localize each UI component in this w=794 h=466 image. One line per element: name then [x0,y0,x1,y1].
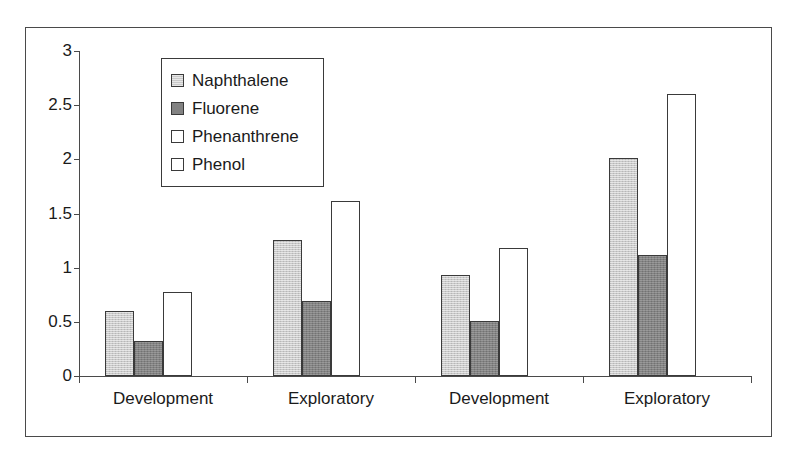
chart-legend: Naphthalene Fluorene Phenanthrene Phenol [161,58,324,187]
x-axis-tick-mark [79,376,80,383]
y-axis-tick-label: 2 [63,149,72,168]
chart-figure: 32.521.510.50 DevelopmentExploratoryDeve… [25,27,772,437]
legend-item[interactable]: Fluorene [171,94,314,122]
bar-naphthalene-group-1 [105,311,134,376]
y-axis-tick-mark [74,214,79,215]
y-axis-tick-label: 1.5 [48,204,72,223]
x-axis-tick-mark [247,376,248,383]
bar-fluorene-group-3 [470,321,499,376]
y-axis-tick-label: 0 [63,366,72,385]
legend-item[interactable]: Phenol [171,150,314,178]
plot-area: 32.521.510.50 DevelopmentExploratoryDeve… [79,51,751,376]
legend-label: Fluorene [192,99,259,118]
x-axis-category-label: Exploratory [583,389,751,409]
legend-item[interactable]: Phenanthrene [171,122,314,150]
legend-item[interactable]: Naphthalene [171,66,314,94]
x-axis-tick-mark [751,376,752,383]
bar-fluorene-group-2 [302,301,331,376]
legend-swatch-phenol [171,158,184,171]
bar-fluorene-group-1 [134,341,163,376]
y-axis-tick-label: 3 [63,41,72,60]
legend-label: Phenol [192,155,245,174]
y-axis-tick-mark [74,159,79,160]
legend-label: Phenanthrene [192,127,299,146]
x-axis-tick-mark [415,376,416,383]
x-axis-tick-mark [583,376,584,383]
x-axis-category-label: Development [79,389,247,409]
legend-swatch-naphthalene [171,74,184,87]
x-axis-category-label: Development [415,389,583,409]
bar-naphthalene-group-4 [609,158,638,376]
legend-swatch-fluorene [171,102,184,115]
y-axis-tick-label: 0.5 [48,312,72,331]
bar-fluorene-group-4 [638,255,667,376]
y-axis-tick-label: 2.5 [48,95,72,114]
bar-phenanthrene-group-3 [499,248,528,376]
x-axis-category-label: Exploratory [247,389,415,409]
bar-phenanthrene-group-4 [667,94,696,376]
y-axis-line [79,51,80,377]
bar-phenanthrene-group-2 [331,201,360,377]
bar-phenanthrene-group-1 [163,292,192,377]
y-axis-tick-mark [74,322,79,323]
legend-label: Naphthalene [192,71,288,90]
legend-swatch-phenanthrene [171,130,184,143]
bar-naphthalene-group-2 [273,240,302,377]
y-axis-tick-mark [74,268,79,269]
y-axis-tick-mark [74,105,79,106]
y-axis-tick-label: 1 [63,258,72,277]
y-axis-tick-mark [74,51,79,52]
bar-naphthalene-group-3 [441,275,470,376]
